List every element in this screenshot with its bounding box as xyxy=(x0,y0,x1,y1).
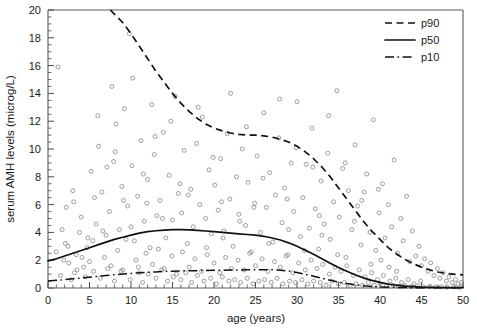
scatter-point xyxy=(73,271,77,275)
scatter-point xyxy=(369,262,373,266)
scatter-point xyxy=(169,119,173,123)
scatter-point xyxy=(195,141,199,145)
scatter-point xyxy=(244,223,248,227)
scatter-point xyxy=(300,278,304,282)
scatter-point xyxy=(102,255,106,259)
scatter-point xyxy=(124,237,128,241)
scatter-point xyxy=(105,165,109,169)
scatter-point xyxy=(91,239,95,243)
scatter-point xyxy=(377,211,381,215)
scatter-point xyxy=(317,214,321,218)
scatter-point xyxy=(447,275,451,279)
scatter-point xyxy=(345,264,349,268)
scatter-point xyxy=(423,257,427,261)
scatter-point xyxy=(327,114,331,118)
scatter-point xyxy=(283,186,287,190)
scatter-point xyxy=(315,267,319,271)
x-tick-label: 20 xyxy=(208,294,220,306)
scatter-point xyxy=(231,244,235,248)
scatter-point xyxy=(273,193,277,197)
scatter-point xyxy=(54,250,58,254)
scatter-point xyxy=(406,278,410,282)
scatter-point xyxy=(148,246,152,250)
scatter-point xyxy=(360,198,364,202)
scatter-point xyxy=(129,225,133,229)
scatter-point xyxy=(319,179,323,183)
scatter-point xyxy=(216,208,220,212)
y-tick-label: 12 xyxy=(29,115,41,127)
scatter-point xyxy=(167,173,171,177)
scatter-point xyxy=(269,280,273,284)
scatter-point xyxy=(359,243,363,247)
scatter-point xyxy=(395,269,399,273)
scatter-point xyxy=(150,103,154,107)
scatter-point xyxy=(161,130,165,134)
x-tick-label: 50 xyxy=(457,294,469,306)
scatter-point xyxy=(432,273,436,277)
scatter-point xyxy=(205,246,209,250)
scatter-point xyxy=(104,233,108,237)
scatter-point xyxy=(193,257,197,261)
scatter-point xyxy=(261,176,265,180)
y-axis-tick-labels: 02468101214161820 xyxy=(29,4,41,294)
scatter-point xyxy=(297,261,301,265)
scatter-point xyxy=(200,115,204,119)
scatter-point xyxy=(399,217,403,221)
scatter-point xyxy=(414,254,418,258)
scatter-point xyxy=(136,194,140,198)
scatter-point xyxy=(141,172,145,176)
scatter-point xyxy=(285,197,289,201)
scatter-point xyxy=(335,89,339,93)
scatter-point xyxy=(80,255,84,259)
scatter-point xyxy=(211,155,215,159)
scatter-point xyxy=(88,260,92,264)
scatter-point xyxy=(379,258,383,262)
scatter-point xyxy=(252,205,256,209)
scatter-point xyxy=(220,275,224,279)
x-tick-label: 35 xyxy=(332,294,344,306)
scatter-point xyxy=(387,265,391,269)
scatter-point xyxy=(86,236,90,240)
scatter-point xyxy=(187,265,191,269)
scatter-point xyxy=(130,164,134,168)
scatter-point xyxy=(401,239,405,243)
scatter-point xyxy=(245,276,249,280)
legend-label-p10: p10 xyxy=(421,51,439,63)
scatter-point xyxy=(264,205,268,209)
y-axis-title: serum AMH levels (microg/L) xyxy=(4,75,16,223)
scatter-point xyxy=(321,262,325,266)
scatter-point xyxy=(366,280,370,284)
scatter-point xyxy=(365,172,369,176)
scatter-point xyxy=(394,276,398,280)
scatter-point xyxy=(139,139,143,143)
scatter-point xyxy=(307,226,311,230)
scatter-point xyxy=(185,242,189,246)
y-axis-ticks xyxy=(48,10,54,288)
scatter-point xyxy=(126,204,130,208)
x-tick-label: 0 xyxy=(45,294,51,306)
scatter-point xyxy=(344,255,348,259)
scatter-point xyxy=(260,257,264,261)
scatter-point xyxy=(357,268,361,272)
scatter-point xyxy=(97,144,101,148)
scatter-point xyxy=(106,267,110,271)
y-tick-label: 0 xyxy=(35,282,41,294)
scatter-point xyxy=(120,185,124,189)
scatter-point xyxy=(144,251,148,255)
scatter-point xyxy=(246,180,250,184)
y-tick-label: 6 xyxy=(35,199,41,211)
scatter-point xyxy=(417,244,421,248)
scatter-point xyxy=(176,191,180,195)
scatter-point xyxy=(58,273,62,277)
scatter-point xyxy=(281,282,285,286)
scatter-point xyxy=(82,265,86,269)
scatter-point xyxy=(289,161,293,165)
scatter-point xyxy=(419,279,423,283)
scatter-point xyxy=(313,207,317,211)
legend-label-p90: p90 xyxy=(421,17,439,29)
scatter-point xyxy=(152,153,156,157)
scatter-point xyxy=(186,193,190,197)
scatter-point xyxy=(239,280,243,284)
y-tick-label: 16 xyxy=(29,60,41,72)
scatter-point xyxy=(376,187,380,191)
